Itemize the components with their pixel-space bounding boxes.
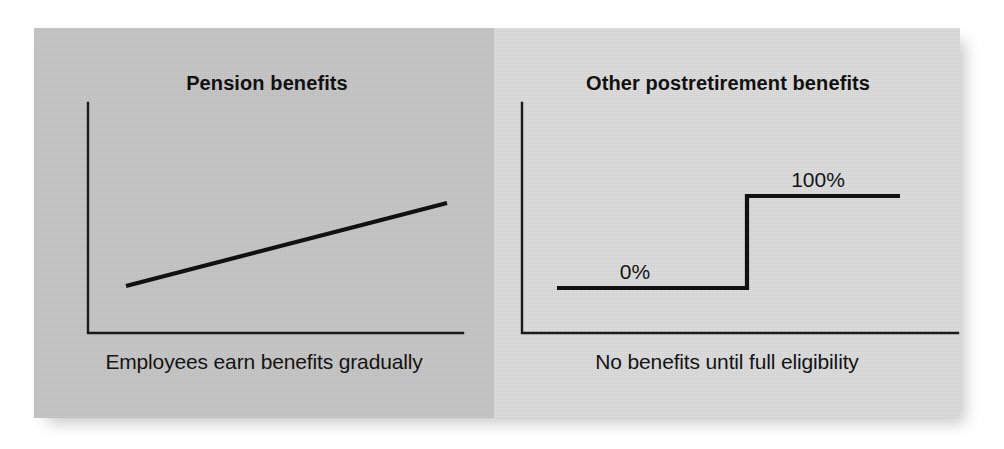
- benefit-accrual-line: [126, 203, 447, 286]
- chart-axes: [88, 103, 463, 333]
- label-hundred-percent: 100%: [791, 168, 845, 191]
- cliff-vesting-step-line: [557, 196, 900, 288]
- benefits-comparison-figure: Pension benefits Employees earn benefits…: [0, 0, 1004, 449]
- chart-axes: [522, 103, 958, 333]
- label-zero-percent: 0%: [620, 260, 650, 283]
- panel-other-postretirement-benefits: Other postretirement benefits 0% 100% No…: [494, 28, 960, 418]
- panel-title-other-postretirement: Other postretirement benefits: [494, 72, 960, 95]
- panel-caption-other-postretirement: No benefits until full eligibility: [494, 350, 960, 374]
- figure-card: Pension benefits Employees earn benefits…: [34, 28, 960, 418]
- panel-caption-pension: Employees earn benefits gradually: [34, 350, 494, 374]
- panel-pension-benefits: Pension benefits Employees earn benefits…: [34, 28, 494, 418]
- panel-title-pension: Pension benefits: [34, 72, 494, 95]
